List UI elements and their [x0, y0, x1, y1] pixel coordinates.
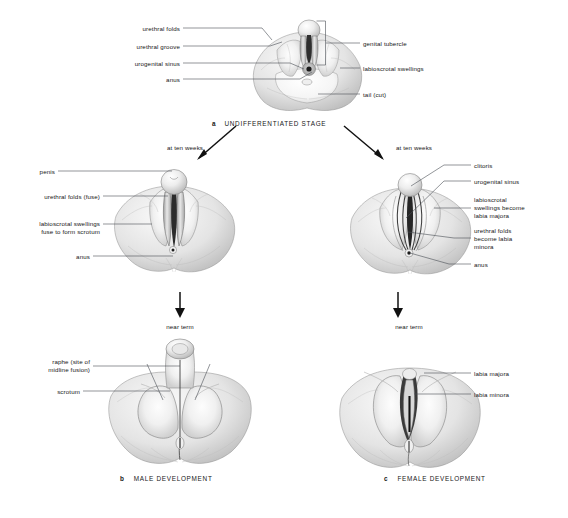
- panel-male-near-term: near term raphe (site of midl: [0, 318, 284, 518]
- caption-text-c: FEMALE DEVELOPMENT: [397, 475, 485, 482]
- caption-letter-b: b: [120, 475, 124, 482]
- caption-female-development: cFEMALE DEVELOPMENT: [374, 468, 486, 489]
- caption-text-b: MALE DEVELOPMENT: [134, 475, 213, 482]
- panel-female-near-term: near term labia majora: [284, 318, 568, 518]
- caption-male-development: bMALE DEVELOPMENT: [110, 468, 213, 489]
- caption-letter-c: c: [384, 475, 388, 482]
